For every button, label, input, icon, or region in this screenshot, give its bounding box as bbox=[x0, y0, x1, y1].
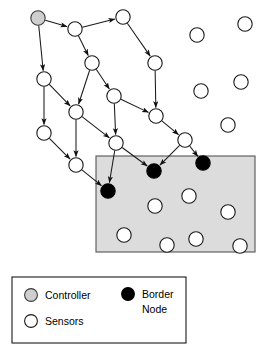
edge-n2-to-n4 bbox=[127, 23, 150, 56]
diagram-canvas: Controller Sensors Border Node bbox=[0, 0, 276, 360]
edge-n5-to-n7 bbox=[49, 84, 70, 106]
edge-c1-to-n1 bbox=[45, 20, 67, 26]
node-sensor-s8 bbox=[221, 205, 235, 219]
node-sensor-n6 bbox=[107, 89, 121, 103]
node-sensor-n8 bbox=[149, 109, 163, 123]
node-sensor-n9 bbox=[37, 126, 51, 140]
node-border-b1 bbox=[101, 184, 115, 198]
legend-label-controller: Controller bbox=[45, 289, 91, 301]
node-sensor-s7 bbox=[148, 199, 162, 213]
node-sensor-s4 bbox=[234, 75, 248, 89]
node-sensor-s5 bbox=[221, 118, 235, 132]
legend: Controller Sensors Border Node bbox=[12, 277, 186, 343]
edge-n4-to-n8 bbox=[155, 71, 156, 108]
edge-n1-to-n3 bbox=[78, 36, 88, 56]
node-sensor-s9 bbox=[117, 228, 131, 242]
edge-n7-to-n10 bbox=[82, 117, 109, 138]
edge-n1-to-n2 bbox=[82, 19, 114, 27]
legend-label-sensors: Sensors bbox=[45, 315, 84, 327]
node-sensor-s6 bbox=[182, 189, 196, 203]
node-sensor-s12 bbox=[233, 239, 247, 253]
edge-c1-to-n5 bbox=[39, 26, 43, 71]
edge-n6-to-n10 bbox=[114, 104, 115, 135]
edge-n8-to-n11 bbox=[162, 121, 179, 135]
border-swatch bbox=[122, 288, 135, 301]
node-sensor-n10 bbox=[109, 136, 123, 150]
legend-label-border-node-line2: Node bbox=[142, 303, 167, 315]
node-controller-c1 bbox=[31, 11, 45, 25]
node-sensor-n2 bbox=[116, 10, 130, 24]
edge-n6-to-n8 bbox=[121, 99, 149, 112]
sensor-swatch bbox=[25, 315, 38, 328]
node-sensor-n11 bbox=[178, 133, 192, 147]
edge-n11-to-b3 bbox=[190, 146, 198, 156]
node-sensor-n5 bbox=[37, 72, 51, 86]
node-sensor-n7 bbox=[69, 105, 83, 119]
node-border-b3 bbox=[196, 156, 210, 170]
node-sensor-n4 bbox=[148, 56, 162, 70]
controller-swatch bbox=[25, 289, 38, 302]
legend-label-border-node-line1: Border bbox=[142, 288, 174, 300]
node-sensor-s1 bbox=[190, 28, 204, 42]
node-sensor-s10 bbox=[160, 238, 174, 252]
node-sensor-n3 bbox=[85, 56, 99, 70]
node-sensor-s11 bbox=[189, 232, 203, 246]
edge-n3-to-n6 bbox=[96, 69, 109, 89]
edge-n3-to-n7 bbox=[79, 70, 90, 104]
node-sensor-s3 bbox=[194, 84, 208, 98]
network-diagram-figure: Controller Sensors Border Node bbox=[0, 0, 276, 360]
node-sensor-n12 bbox=[69, 158, 83, 172]
node-sensor-n1 bbox=[68, 22, 82, 36]
edge-n9-to-n12 bbox=[49, 138, 70, 159]
node-sensor-s2 bbox=[238, 17, 252, 31]
node-border-b2 bbox=[147, 164, 161, 178]
